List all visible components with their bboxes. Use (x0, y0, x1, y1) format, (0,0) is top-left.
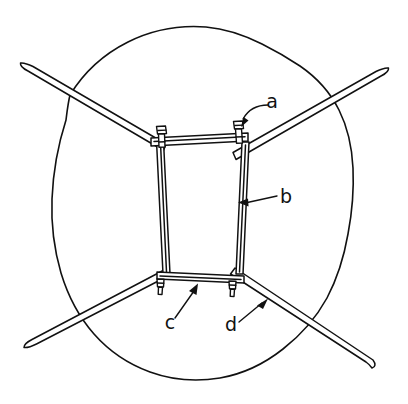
corner-bolt-assembly-bottom-left (157, 279, 164, 295)
diagonal-rod-upper-left (20, 63, 166, 151)
corner-bolt-assembly-bottom-right (229, 281, 236, 297)
vertical-frame-bar-left (157, 141, 171, 274)
leader-line-a (241, 105, 268, 127)
part-label-c: c (165, 311, 175, 333)
leader-line-d (239, 299, 268, 323)
figure-root: a b c d (0, 0, 408, 404)
diagonal-rod-upper-right (233, 68, 389, 160)
leader-line-c (175, 284, 198, 319)
vertical-frame-bar-right (236, 142, 249, 274)
technical-line-drawing: a b c d (0, 0, 408, 404)
blob-outline (52, 27, 353, 380)
part-label-b: b (280, 185, 292, 207)
part-label-d: d (225, 313, 237, 335)
part-label-a: a (266, 90, 278, 112)
diagonal-rod-lower-right (231, 268, 375, 368)
